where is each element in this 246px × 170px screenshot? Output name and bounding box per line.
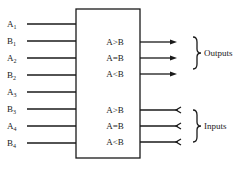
input-label-b4: B4 — [7, 138, 16, 149]
input-label-b1: B1 — [7, 36, 16, 47]
arrow-head-icon — [170, 56, 177, 61]
input-label-b3: B3 — [7, 104, 16, 115]
output-label: A<B — [106, 69, 124, 79]
inputs-label: Inputs — [204, 121, 227, 131]
comparator-diagram: A1B1A2B2A3B3A4B4 A>BA=BA<B A>BA=BA<B Out… — [0, 0, 246, 170]
cascade-input-label: A>B — [106, 105, 124, 115]
input-label-a4: A4 — [7, 121, 17, 132]
outputs-brace — [193, 37, 201, 69]
outputs-group: A>BA=BA<B — [106, 37, 177, 79]
input-label-a1: A1 — [7, 19, 17, 30]
input-chevron-icon — [176, 123, 181, 129]
cascade-input-label: A<B — [106, 137, 124, 147]
left-inputs: A1B1A2B2A3B3A4B4 — [7, 19, 76, 149]
arrow-head-icon — [170, 72, 177, 77]
inputs-brace — [193, 110, 201, 142]
arrow-head-icon — [170, 40, 177, 45]
input-label-a2: A2 — [7, 53, 17, 64]
comparator-block — [76, 9, 140, 158]
output-label: A>B — [106, 37, 124, 47]
cascade-inputs-group: A>BA=BA<B — [106, 105, 181, 147]
input-label-a3: A3 — [7, 87, 17, 98]
outputs-label: Outputs — [204, 48, 233, 58]
output-label: A=B — [106, 53, 124, 63]
input-label-b2: B2 — [7, 70, 16, 81]
input-chevron-icon — [176, 139, 181, 145]
cascade-input-label: A=B — [106, 121, 124, 131]
input-chevron-icon — [176, 107, 181, 113]
